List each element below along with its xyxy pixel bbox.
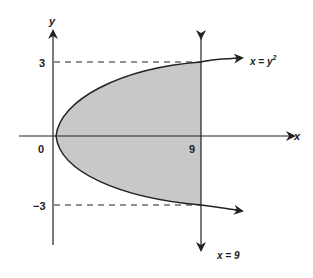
tick-label-9: 9 <box>189 143 195 155</box>
tick-label-3: 3 <box>39 57 45 69</box>
tick-label-neg3: −3 <box>33 200 46 212</box>
parabola-label: x = y2 <box>249 54 277 67</box>
shaded-region <box>56 62 201 205</box>
tick-label-origin: 0 <box>38 143 44 155</box>
vertical-line-label: x = 9 <box>216 250 240 261</box>
x-axis-label: x <box>293 130 301 142</box>
parabola-region-diagram: y x 3 −3 0 9 x = y2 x = 9 <box>0 0 313 278</box>
y-axis-label: y <box>48 15 56 27</box>
